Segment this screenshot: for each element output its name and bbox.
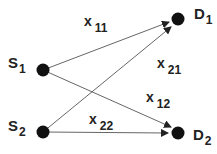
label-d2: D2 [193,127,212,147]
node-s1 [37,64,50,77]
label-s1: S1 [8,55,26,75]
label-x12: x12 [146,90,170,110]
node-s2 [37,126,50,139]
label-s2: S2 [8,118,26,138]
label-d1: D1 [194,6,213,26]
label-x11: x11 [84,14,107,34]
label-x22: x22 [89,112,113,132]
node-d2 [172,127,185,140]
node-d1 [172,13,185,26]
label-x21: x21 [157,56,181,76]
